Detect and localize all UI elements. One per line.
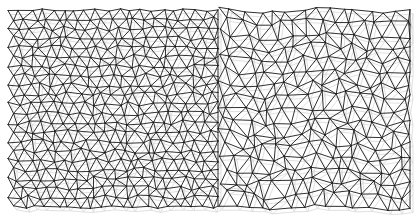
mesh-svg xyxy=(0,0,419,223)
triangle-mesh-image xyxy=(0,0,419,223)
mesh-shadow xyxy=(11,11,413,214)
